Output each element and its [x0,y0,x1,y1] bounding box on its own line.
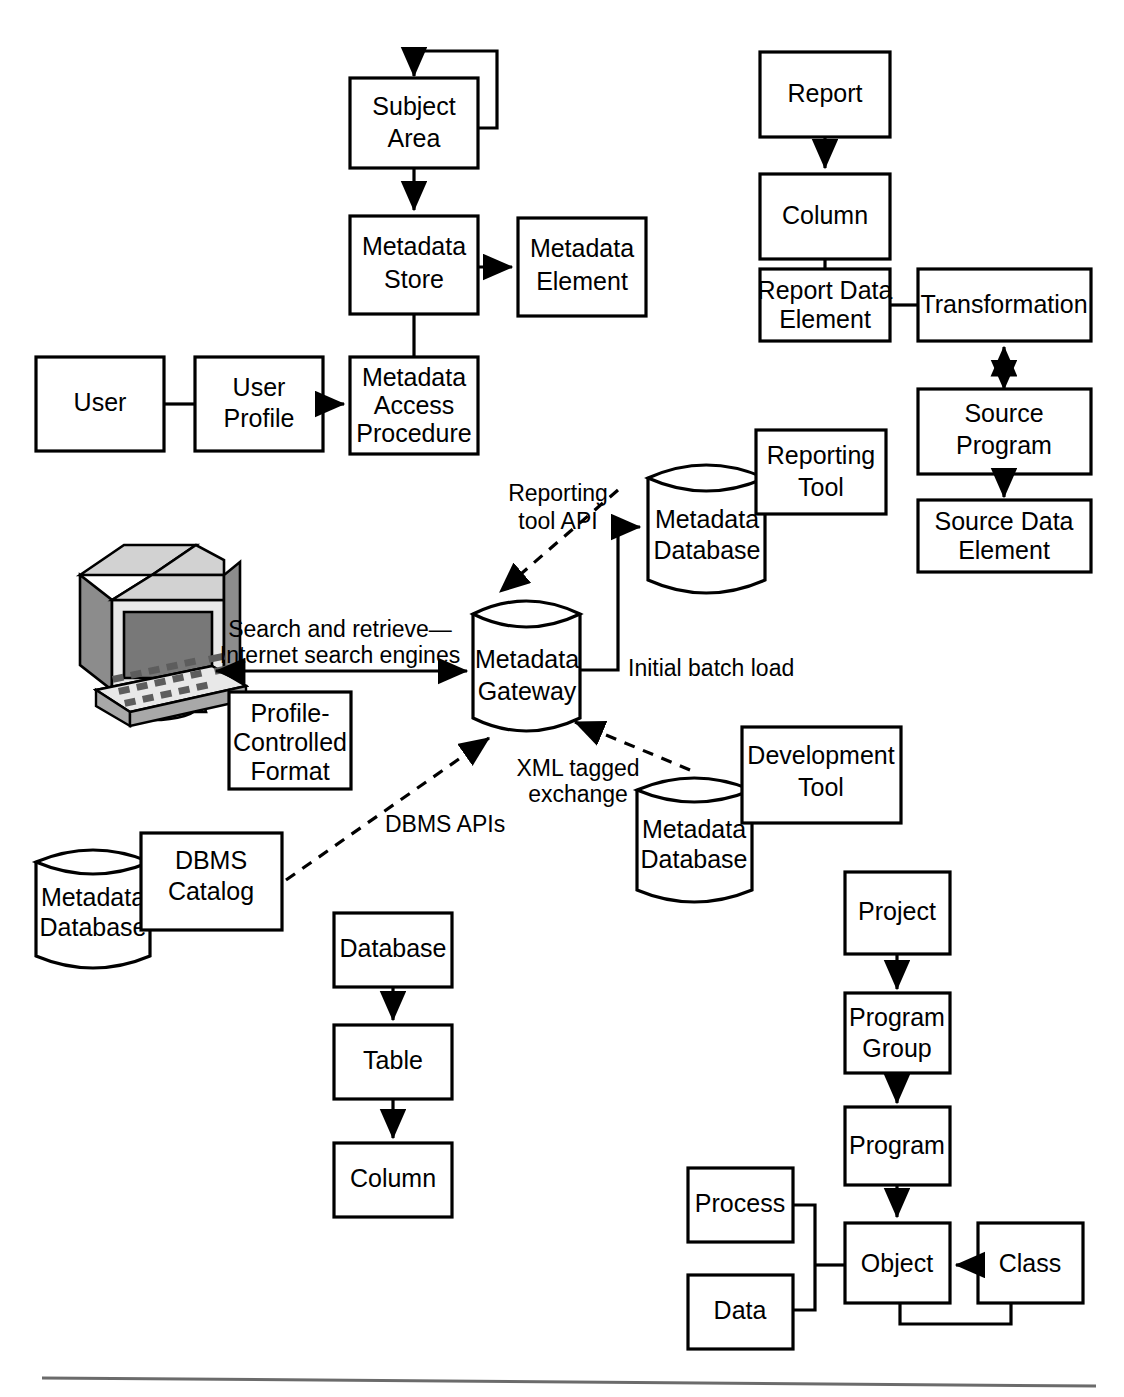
box-report-label: Report [787,79,862,107]
box-source-program-label-line1: Source [964,399,1043,427]
box-metadata-element-label-line2: Element [536,267,628,295]
box-project-label: Project [858,897,936,925]
cylinder-metadata-db-right-label-line1: Metadata [642,815,746,843]
edge-object-bottom-to-class [900,1303,1011,1324]
box-profile-controlled-label-line1: Profile- [250,699,329,727]
box-table-label: Table [363,1046,423,1074]
cylinder-metadata-gateway-label-line2: Gateway [478,677,577,705]
architecture-diagram: Subject Area Metadata Store Metadata Ele… [0,0,1124,1397]
label-dbms-apis: DBMS APIs [385,811,505,837]
cylinder-metadata-db-top-label-line2: Database [653,536,760,564]
cylinder-metadata-gateway-label-line1: Metadata [475,645,579,673]
box-source-program-label-line2: Program [956,431,1052,459]
box-program-group-label-line1: Program [849,1003,945,1031]
box-reporting-tool-label-line1: Reporting [767,441,875,469]
label-reporting-tool-api-line1: Reporting [508,480,608,506]
box-user-label: User [74,388,127,416]
box-subject-area-label-line1: Subject [372,92,455,120]
label-search-retrieve-line1: Search and retrieve— [228,616,452,642]
cylinder-metadata-db-right-label-line2: Database [640,845,747,873]
box-user-profile-label-line1: User [233,373,286,401]
box-program-group-label-line2: Group [862,1034,931,1062]
box-profile-controlled-label-line2: Controlled [233,728,347,756]
label-search-retrieve-line2: Internet search engines [220,642,460,668]
label-xml-tagged-line1: XML tagged [516,755,639,781]
box-report-data-element-label-line2: Element [779,305,871,333]
bottom-rule [42,1378,1096,1386]
diagram-canvas: Subject Area Metadata Store Metadata Ele… [0,0,1124,1397]
cylinder-metadata-db-left-label-line2: Database [39,913,146,941]
box-user-profile-label-line2: Profile [224,404,295,432]
box-metadata-store-label-line1: Metadata [362,232,466,260]
cylinder-metadata-db-left-label-line1: Metadata [41,883,145,911]
edge-process-data-to-object [793,1205,845,1310]
box-subject-area-label-line2: Area [388,124,441,152]
box-column-bottom-label: Column [350,1164,436,1192]
label-xml-tagged-line2: exchange [528,781,628,807]
box-metadata-element-label-line1: Metadata [530,234,634,262]
edge-initial-batch-load [580,527,640,670]
box-reporting-tool-label-line2: Tool [798,473,844,501]
box-dbms-catalog-label-line1: DBMS [175,846,247,874]
box-class-label: Class [999,1249,1062,1277]
box-metadata-store-label-line2: Store [384,265,444,293]
box-process-label: Process [695,1189,785,1217]
label-reporting-tool-api-line2: tool API [518,508,597,534]
box-transformation-label: Transformation [920,290,1087,318]
box-metadata-access-label-line2: Access [374,391,455,419]
box-database-label: Database [339,934,446,962]
box-dbms-catalog-label-line2: Catalog [168,877,254,905]
computer-workstation-icon [80,545,246,726]
box-metadata-access-label-line1: Metadata [362,363,466,391]
box-development-tool-label-line2: Tool [798,773,844,801]
box-program-label: Program [849,1131,945,1159]
label-initial-batch-load: Initial batch load [628,655,794,681]
box-profile-controlled-label-line3: Format [250,757,329,785]
box-source-data-element-label-line2: Element [958,536,1050,564]
cylinder-metadata-db-top-label-line1: Metadata [655,505,759,533]
box-development-tool-label-line1: Development [747,741,894,769]
box-metadata-access-label-line3: Procedure [356,419,471,447]
box-column-top-label: Column [782,201,868,229]
box-object-label: Object [861,1249,933,1277]
box-report-data-element-label-line1: Report Data [758,276,893,304]
box-data-label: Data [714,1296,767,1324]
box-source-data-element-label-line1: Source Data [935,507,1074,535]
